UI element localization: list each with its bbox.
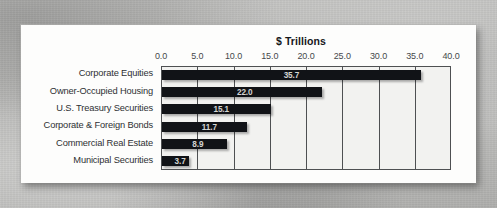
y-axis-category-labels: Corporate EquitiesOwner-Occupied Housing… xyxy=(27,66,158,170)
bar-value-label: 15.1 xyxy=(213,105,229,114)
x-tick-label: 20.0 xyxy=(297,51,314,61)
x-tick-label: 30.0 xyxy=(370,51,387,61)
bar-value-label: 8.9 xyxy=(192,140,203,149)
bar-value-label: 35.7 xyxy=(284,71,300,80)
x-tick-label: 10.0 xyxy=(225,51,242,61)
bar-value-label: 11.7 xyxy=(202,123,217,132)
x-tick-label: 40.0 xyxy=(442,51,459,61)
figure-card: $ Trillions 0.05.010.015.020.025.030.035… xyxy=(21,25,476,183)
x-tick-label: 35.0 xyxy=(406,51,423,61)
category-label: Municipal Securities xyxy=(73,155,153,165)
bar-value-label: 3.7 xyxy=(175,157,186,166)
x-tick-label: 5.0 xyxy=(191,51,203,61)
category-label: Commercial Real Estate xyxy=(56,138,153,148)
x-axis-tick-labels: 0.05.010.015.020.025.030.035.040.0 xyxy=(161,51,451,64)
category-label: Corporate Equities xyxy=(79,68,153,78)
chart-title: $ Trillions xyxy=(151,35,451,47)
bar-value-label: 22.0 xyxy=(237,88,253,97)
bars-layer: 35.722.015.111.78.93.7 xyxy=(162,67,450,169)
category-label: Corporate & Foreign Bonds xyxy=(44,120,153,130)
bar-chart: $ Trillions 0.05.010.015.020.025.030.035… xyxy=(21,25,476,183)
category-label: Owner-Occupied Housing xyxy=(50,86,153,96)
category-label: U.S. Treasury Securities xyxy=(56,103,153,113)
x-tick-label: 0.0 xyxy=(155,51,167,61)
x-tick-label: 15.0 xyxy=(261,51,278,61)
x-tick-label: 25.0 xyxy=(334,51,351,61)
